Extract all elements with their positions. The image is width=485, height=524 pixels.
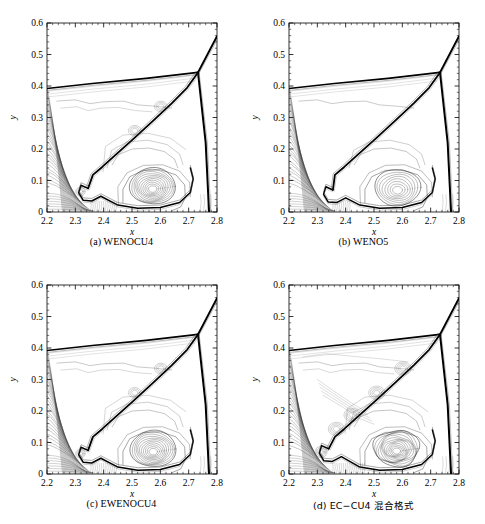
x-tick-label: 2.7: [425, 478, 437, 488]
y-tick-label: 0.2: [31, 406, 43, 416]
panel-d-caption: (d) EC−CU4 混合格式: [242, 498, 485, 512]
x-axis-label: x: [129, 227, 135, 236]
x-tick-label: 2.8: [211, 216, 223, 226]
panel-a: 2.22.32.42.52.62.72.800.10.20.30.40.50.6…: [0, 0, 243, 262]
y-tick-label: 0.6: [31, 18, 43, 28]
panel-c: 2.22.32.42.52.62.72.800.10.20.30.40.50.6…: [0, 262, 243, 524]
x-tick-label: 2.7: [183, 216, 195, 226]
plot-b: 2.22.32.42.52.62.72.800.10.20.30.40.50.6…: [242, 0, 485, 236]
y-tick-label: 0.5: [31, 312, 43, 322]
y-tick-label: 0.6: [31, 280, 43, 290]
x-tick-label: 2.8: [211, 478, 223, 488]
x-tick-label: 2.5: [368, 216, 380, 226]
y-tick-label: 0.4: [273, 81, 285, 91]
y-tick-label: 0.1: [31, 176, 43, 186]
y-tick-label: 0.5: [273, 50, 285, 60]
y-tick-label: 0.2: [273, 144, 285, 154]
y-tick-label: 0.3: [31, 375, 43, 385]
y-tick-label: 0.1: [273, 176, 285, 186]
y-axis-label: y: [8, 115, 18, 121]
y-axis-label: y: [250, 377, 260, 383]
y-tick-label: 0.4: [31, 81, 43, 91]
panel-a-caption: (a) WENOCU4: [0, 236, 243, 247]
y-axis-label: y: [8, 377, 18, 383]
contour-field: [289, 36, 459, 212]
x-tick-label: 2.4: [98, 216, 110, 226]
plot-a: 2.22.32.42.52.62.72.800.10.20.30.40.50.6…: [0, 0, 243, 236]
x-tick-label: 2.6: [396, 478, 408, 488]
x-tick-label: 2.5: [126, 478, 138, 488]
x-tick-label: 2.3: [69, 216, 81, 226]
y-tick-label: 0.5: [31, 50, 43, 60]
y-tick-label: 0.6: [273, 18, 285, 28]
x-tick-label: 2.4: [340, 216, 352, 226]
x-tick-label: 2.7: [183, 478, 195, 488]
y-tick-label: 0.4: [273, 343, 285, 353]
plot-c: 2.22.32.42.52.62.72.800.10.20.30.40.50.6…: [0, 262, 243, 498]
y-tick-label: 0.5: [273, 312, 285, 322]
x-tick-label: 2.5: [126, 216, 138, 226]
x-tick-label: 2.3: [311, 216, 323, 226]
plot-d: 2.22.32.42.52.62.72.800.10.20.30.40.50.6…: [242, 262, 485, 498]
y-tick-label: 0.1: [273, 438, 285, 448]
y-tick-label: 0: [38, 469, 43, 479]
contour-field: [47, 36, 217, 212]
panel-b: 2.22.32.42.52.62.72.800.10.20.30.40.50.6…: [242, 0, 485, 262]
panel-d: 2.22.32.42.52.62.72.800.10.20.30.40.50.6…: [242, 262, 485, 524]
x-axis-label: x: [371, 227, 377, 236]
y-axis-label: y: [250, 115, 260, 121]
x-axis-label: x: [129, 489, 135, 498]
contour-field: [47, 298, 217, 474]
contour-field: [289, 298, 459, 474]
x-tick-label: 2.6: [154, 216, 166, 226]
y-tick-label: 0.3: [273, 113, 285, 123]
y-tick-label: 0.3: [273, 375, 285, 385]
panel-c-caption: (c) EWENOCU4: [0, 498, 243, 509]
x-tick-label: 2.5: [368, 478, 380, 488]
y-tick-label: 0.4: [31, 343, 43, 353]
x-tick-label: 2.8: [453, 216, 465, 226]
y-tick-label: 0: [280, 207, 285, 217]
x-tick-label: 2.8: [453, 478, 465, 488]
y-tick-label: 0.2: [273, 406, 285, 416]
x-tick-label: 2.4: [98, 478, 110, 488]
x-axis-label: x: [371, 489, 377, 498]
x-tick-label: 2.3: [311, 478, 323, 488]
y-tick-label: 0: [38, 207, 43, 217]
x-tick-label: 2.3: [69, 478, 81, 488]
x-tick-label: 2.6: [396, 216, 408, 226]
y-tick-label: 0: [280, 469, 285, 479]
x-tick-label: 2.4: [340, 478, 352, 488]
x-tick-label: 2.6: [154, 478, 166, 488]
panel-b-caption: (b) WENO5: [242, 236, 485, 247]
x-tick-label: 2.7: [425, 216, 437, 226]
y-tick-label: 0.1: [31, 438, 43, 448]
y-tick-label: 0.3: [31, 113, 43, 123]
y-tick-label: 0.2: [31, 144, 43, 154]
y-tick-label: 0.6: [273, 280, 285, 290]
figure-double-mach-reflection: 2.22.32.42.52.62.72.800.10.20.30.40.50.6…: [0, 0, 485, 524]
